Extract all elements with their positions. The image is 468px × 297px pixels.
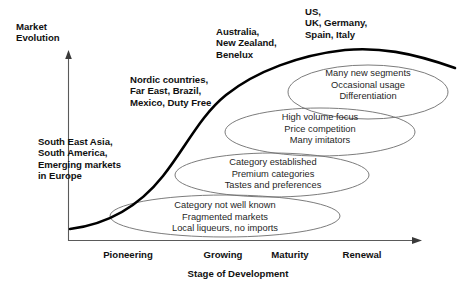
annotation-australia: Australia, New Zealand, Benelux: [216, 26, 277, 60]
x-tick-renewal: Renewal: [324, 249, 400, 260]
x-tick-growing: Growing: [185, 249, 261, 260]
bubble-text-maturity: High volume focus Price competition Many…: [225, 112, 415, 147]
bubble-text-pioneering: Category not well known Fragmented marke…: [110, 200, 340, 235]
x-axis-label: Stage of Development: [158, 268, 318, 279]
bubble-text-growing: Category established Premium categories …: [176, 157, 370, 192]
x-axis: [69, 237, 423, 244]
annotation-emerging-markets: South East Asia, South America, Emerging…: [38, 136, 121, 182]
annotation-nordic-countries: Nordic countries, Far East, Brazil, Mexi…: [130, 74, 211, 108]
market-evolution-figure: Market Evolution South East Asia, South …: [0, 0, 468, 297]
bubble-text-renewal: Many new segments Occasional usage Diffe…: [288, 68, 448, 103]
x-tick-pioneering: Pioneering: [88, 249, 168, 260]
y-axis-label: Market Evolution: [16, 21, 60, 44]
annotation-us-uk: US, UK, Germany, Spain, Italy: [305, 6, 367, 40]
x-tick-maturity: Maturity: [252, 249, 328, 260]
